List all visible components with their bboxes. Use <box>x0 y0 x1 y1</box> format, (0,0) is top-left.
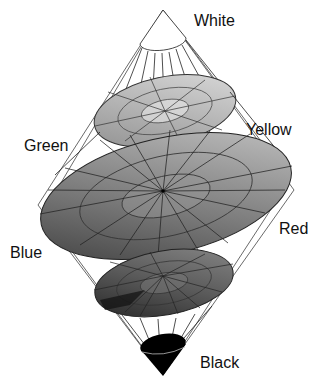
label-red: Red <box>279 221 308 237</box>
label-green: Green <box>24 138 68 154</box>
white-cap <box>140 10 186 51</box>
black-cap <box>138 330 187 376</box>
label-black: Black <box>200 355 239 371</box>
color-solid-diagram: White Yellow Green Blue Red Black <box>0 0 314 385</box>
label-yellow: Yellow <box>246 122 292 138</box>
double-cone-figure <box>0 0 314 385</box>
label-white: White <box>194 13 235 29</box>
label-blue: Blue <box>10 245 42 261</box>
